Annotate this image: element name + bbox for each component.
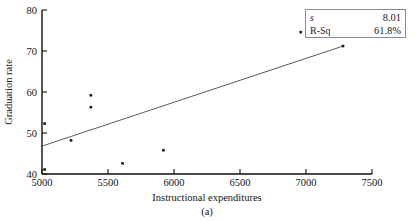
legend-label-r-sq: R-Sq	[310, 24, 331, 37]
legend-value-r-sq: 61.8%	[374, 24, 401, 37]
data-point-8	[342, 45, 345, 48]
y-tick-label-70: 70	[27, 46, 38, 57]
data-point-4	[90, 106, 93, 109]
statistics-legend-box: s 8.01 R-Sq 61.8%	[305, 9, 406, 38]
regression-line	[42, 46, 344, 146]
legend-row-r-sq: R-Sq 61.8%	[310, 24, 401, 37]
x-axis-title: Instructional expenditures	[152, 192, 261, 203]
legend-row-s: s 8.01	[310, 11, 401, 24]
y-axis-title: Graduation rate	[3, 59, 14, 125]
data-point-7	[299, 31, 302, 34]
figure-caption: (a)	[201, 206, 213, 218]
x-tick-label-5500: 5500	[98, 177, 119, 188]
x-tick-label-5000: 5000	[32, 177, 53, 188]
x-tick-label-7000: 7000	[296, 177, 317, 188]
data-point-6	[162, 149, 165, 152]
x-tick-label-6000: 6000	[164, 177, 185, 188]
data-point-5	[121, 162, 124, 165]
data-point-0	[43, 122, 46, 125]
y-tick-label-60: 60	[27, 87, 38, 98]
legend-value-s: 8.01	[383, 11, 401, 24]
data-point-1	[43, 168, 46, 171]
y-tick-label-80: 80	[27, 5, 38, 16]
x-tick-label-7500: 7500	[362, 177, 383, 188]
y-tick-label-50: 50	[27, 128, 38, 139]
x-tick-label-6500: 6500	[230, 177, 251, 188]
data-point-2	[70, 139, 73, 142]
figure-scatter-plot: 4050607080500055006000650070007500Instru…	[0, 0, 415, 221]
data-point-3	[90, 94, 93, 97]
